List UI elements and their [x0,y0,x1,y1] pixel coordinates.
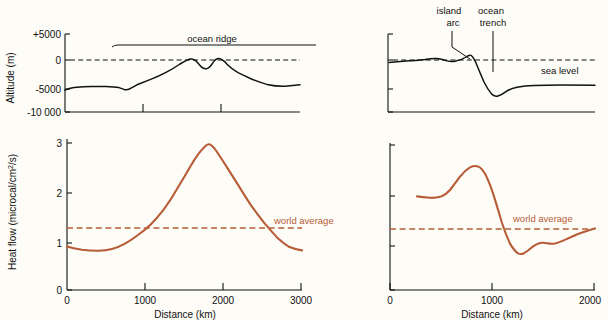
panel-bottom-left: Heat flow (microcal/cm2/s) 3 2 1 0 0 100… [7,138,334,320]
ocean-trench-label-line2: trench [480,17,506,28]
figure-svg: Altitude (m) +5000 0 -5000 -10 000 ocean… [0,0,608,321]
ocean-trench-label-line1: ocean [478,5,504,16]
br-xtick-2000: 2000 [579,295,602,306]
bl-xtick-2000: 2000 [212,295,235,306]
trench-heatflow-curve [417,166,595,254]
panel-bottom-right: 0 1000 2000 Distance (km) world average [387,143,601,320]
ridge-heatflow-curve [67,144,302,251]
island-arc-leader [452,31,470,59]
panel-top-right: island arc ocean trench sea level [388,5,595,112]
ocean-ridge-bracket [112,45,316,47]
bl-xtick-3000: 3000 [290,295,313,306]
panel-top-left: Altitude (m) +5000 0 -5000 -10 000 ocean… [5,29,316,118]
ytick-zero: 0 [55,55,61,66]
world-average-label-right: world average [512,213,573,224]
ytick-plus5000: +5000 [33,29,62,40]
heatflow-y-axis-label: Heat flow (microcal/cm2/s) [7,154,19,270]
ytick-minus10000: -10 000 [27,107,61,118]
ridge-altitude-profile [65,59,300,91]
heatflow-ylabel-main: Heat flow (microcal/cm [7,169,18,270]
bl-ytick-0: 0 [56,285,62,296]
island-arc-label-line1: island [437,5,462,16]
bl-xtick-0: 0 [64,295,70,306]
br-xtick-1000: 1000 [481,295,504,306]
heatflow-ylabel-tail: /s) [7,154,18,165]
br-xtick-0: 0 [387,295,393,306]
ocean-ridge-label: ocean ridge [187,33,237,44]
bl-ytick-3: 3 [56,138,62,149]
bl-ytick-2: 2 [56,188,62,199]
ytick-minus5000: -5000 [35,84,61,95]
bl-xtick-1000: 1000 [134,295,157,306]
island-arc-label-line2: arc [446,17,459,28]
world-average-label-left: world average [273,215,334,226]
figure-container: Altitude (m) +5000 0 -5000 -10 000 ocean… [0,0,608,321]
altitude-y-axis-label: Altitude (m) [5,52,16,103]
sea-level-label-right: sea level [541,65,579,76]
bl-x-axis-label: Distance (km) [154,309,216,320]
br-x-axis-label: Distance (km) [461,309,523,320]
bl-ytick-1: 1 [56,238,62,249]
